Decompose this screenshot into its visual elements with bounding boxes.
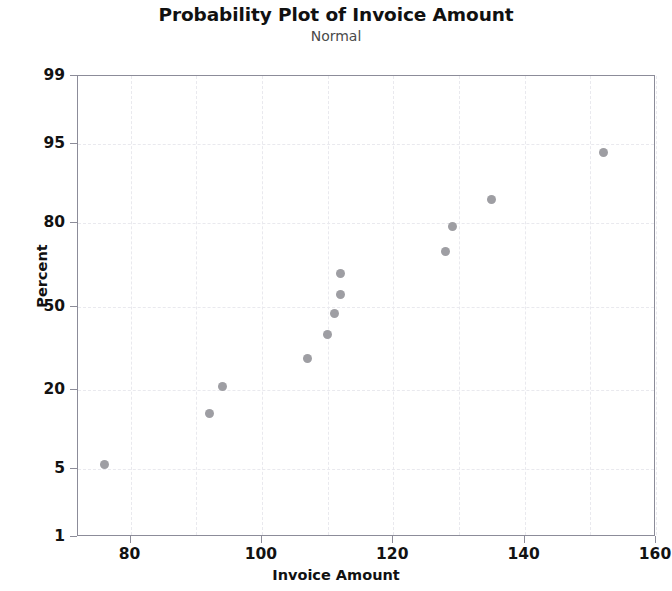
data-point [336,290,345,299]
x-axis-title: Invoice Amount [0,567,672,583]
y-tick-mark [70,143,77,144]
probability-plot: Probability Plot of Invoice Amount Norma… [0,0,672,591]
x-tick-mark [392,536,393,543]
x-tick-label: 140 [494,545,554,563]
y-tick-mark [70,389,77,390]
chart-title: Probability Plot of Invoice Amount [0,4,672,26]
y-tick-mark [70,536,77,537]
data-points [78,76,654,535]
data-point [303,354,312,363]
y-tick-mark [70,306,77,307]
data-point [336,269,345,278]
data-point [330,309,339,318]
y-axis-title: Percent [34,216,50,336]
y-tick-mark [70,468,77,469]
data-point [441,247,450,256]
y-tick-label: 20 [17,381,65,397]
x-tick-mark [524,536,525,543]
data-point [218,382,227,391]
y-tick-label: 5 [17,460,65,476]
x-tick-mark [655,536,656,543]
x-tick-label: 120 [362,545,422,563]
data-point [323,330,332,339]
x-tick-label: 100 [231,545,291,563]
plot-area [77,75,655,536]
x-tick-label: 160 [625,545,672,563]
x-tick-label: 80 [100,545,160,563]
data-point [205,409,214,418]
chart-subtitle: Normal [0,27,672,45]
data-point [599,148,608,157]
y-tick-mark [70,75,77,76]
data-point [100,460,109,469]
data-point [448,222,457,231]
title-block: Probability Plot of Invoice Amount Norma… [0,4,672,45]
gridline-vertical [656,76,657,535]
y-tick-mark [70,222,77,223]
x-tick-mark [130,536,131,543]
y-tick-label: 95 [17,135,65,151]
x-tick-mark [261,536,262,543]
y-tick-label: 99 [17,67,65,83]
data-point [487,195,496,204]
y-tick-label: 1 [17,528,65,544]
